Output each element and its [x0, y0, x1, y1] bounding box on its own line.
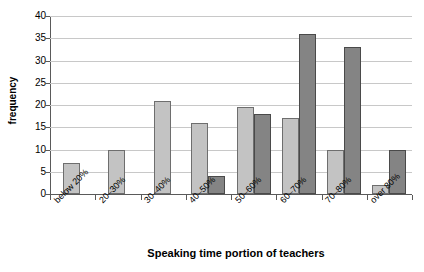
y-tick-label-30: 30 [22, 56, 46, 66]
bars-layer [50, 16, 412, 194]
y-tick-mark-35 [45, 38, 50, 39]
bar-series-dark-5 [299, 34, 316, 194]
y-tick-label-40: 40 [22, 11, 46, 21]
y-tick-label-5: 5 [22, 167, 46, 177]
x-tick-mark-5 [276, 195, 277, 200]
x-tick-mark-3 [186, 195, 187, 200]
x-tick-mark-6 [322, 195, 323, 200]
y-tick-label-35: 35 [22, 33, 46, 43]
y-tick-label-20: 20 [22, 100, 46, 110]
y-tick-label-15: 15 [22, 122, 46, 132]
y-tick-mark-10 [45, 150, 50, 151]
bar-chart: frequency 4035302520151050 below 20%20–3… [0, 0, 424, 272]
bar-series-dark-6 [344, 47, 361, 194]
x-tick-mark-4 [231, 195, 232, 200]
x-tick-mark-8 [412, 195, 413, 200]
y-tick-mark-15 [45, 127, 50, 128]
y-tick-mark-40 [45, 16, 50, 17]
y-tick-label-25: 25 [22, 78, 46, 88]
x-axis-title: Speaking time portion of teachers [0, 247, 424, 259]
x-tick-mark-0 [50, 195, 51, 200]
y-tick-mark-30 [45, 61, 50, 62]
y-axis-title: frequency [7, 61, 18, 141]
plot-area [50, 16, 412, 194]
x-tick-mark-1 [95, 195, 96, 200]
x-axis-tick-labels: below 20%20–30%30–40%40–50%50–60%60–70%7… [0, 198, 424, 250]
y-tick-label-10: 10 [22, 145, 46, 155]
x-tick-mark-7 [367, 195, 368, 200]
x-tick-mark-2 [141, 195, 142, 200]
y-tick-mark-20 [45, 105, 50, 106]
y-tick-mark-5 [45, 172, 50, 173]
y-tick-mark-25 [45, 83, 50, 84]
